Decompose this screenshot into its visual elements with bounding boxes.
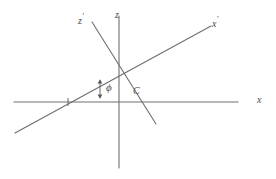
angle-arrow xyxy=(98,79,103,99)
x-axis-label: x xyxy=(257,95,262,105)
z-prime-axis-label: z′ xyxy=(78,14,84,26)
figure-canvas: z′ z x′ x ϕ C xyxy=(0,0,276,179)
phi-angle-label: ϕ xyxy=(106,82,112,93)
x-prime-axis-label: x′ xyxy=(212,17,219,29)
point-c-label: C xyxy=(133,86,140,96)
z-prime-axis-line xyxy=(92,22,156,124)
x-prime-axis-line xyxy=(15,26,211,133)
z-axis-label: z xyxy=(115,10,119,20)
prime-symbol: ′ xyxy=(217,15,219,24)
